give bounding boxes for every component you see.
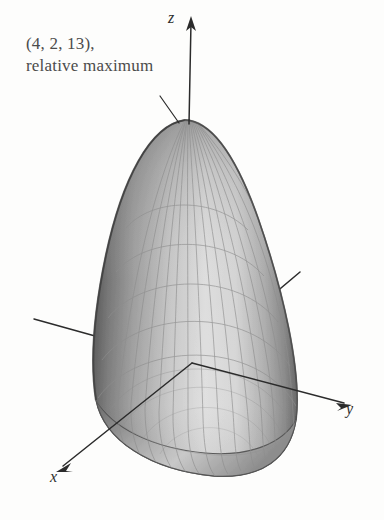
surface-body-vertical-shade <box>93 120 297 476</box>
axis-label-z: z <box>168 9 174 27</box>
paraboloid-surface <box>93 120 297 477</box>
axis-label-x: x <box>50 468 57 486</box>
figure-canvas: (4, 2, 13), relative maximum z y x <box>0 0 384 520</box>
annotation-description: relative maximum <box>26 55 153 77</box>
annotation-point-coordinates: (4, 2, 13), <box>26 33 153 55</box>
surface-plot-svg <box>0 0 384 520</box>
axis-label-y: y <box>346 400 353 418</box>
axis-z-positive <box>189 22 191 124</box>
relative-maximum-annotation: (4, 2, 13), relative maximum <box>26 33 153 77</box>
annotation-leader-line <box>160 96 179 123</box>
